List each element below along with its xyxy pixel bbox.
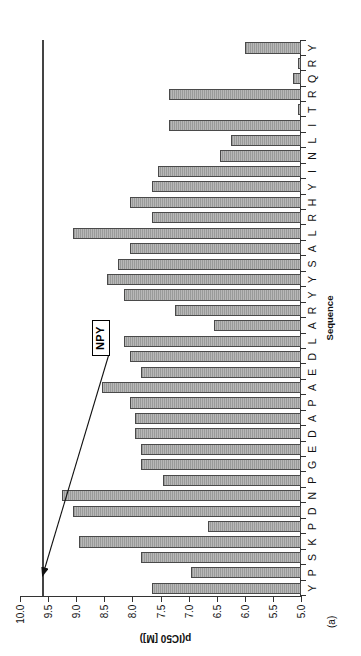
bar-slot [20,71,301,86]
category-axis-labels: YPSKPDNPGEDAPAEDLARYYSALRHYINLITRQRY [306,40,322,596]
bar-slot [20,473,301,488]
bar-slot [20,318,301,333]
bar-slot [20,534,301,549]
category-axis-tick-label: A [306,241,322,256]
category-axis-tick-label: E [306,442,322,457]
bar [169,120,301,131]
bar [118,259,301,270]
category-axis-tick-label: Y [306,40,322,55]
value-axis-title: p(IC50 [M]) [140,633,192,644]
bar-slot [20,581,301,596]
category-axis-tick-label: K [306,534,322,549]
bar [158,166,301,177]
bar-slot [20,395,301,410]
category-axis-tick-label: I [306,164,322,179]
bar [62,490,301,501]
category-axis-tick-label: Y [306,272,322,287]
bar [220,150,301,161]
value-axis-tick [217,596,218,602]
category-axis-tick-label: L [306,133,322,148]
bar [79,536,301,547]
bar [175,305,301,316]
category-axis-tick-label: D [306,426,322,441]
category-axis-tick-label: N [306,488,322,503]
bar [208,521,301,532]
bar [298,58,301,69]
value-axis-tick-label: 9.5 [43,605,54,618]
bar-slot [20,303,301,318]
bar [102,382,302,393]
category-axis-tick-label: A [306,318,322,333]
value-axis-tick [132,596,133,602]
category-axis-tick-label: L [306,334,322,349]
category-axis-tick-label: S [306,550,322,565]
value-axis-tick-label: 6.0 [239,605,250,618]
bar [130,243,301,254]
bar-slot [20,565,301,580]
npy-annotation-box: NPY [92,320,110,356]
npy-reference-line [42,40,43,596]
bar [298,104,301,115]
value-axis-tick [189,596,190,602]
bar [135,413,301,424]
category-axis-tick-label: R [306,210,322,225]
value-axis-tick-label: 10.0 [15,605,26,624]
figure-canvas: 10.09.59.08.58.07.57.06.56.05.55.0 p(IC5… [0,0,361,656]
bar [152,212,301,223]
category-axis-tick-label: P [306,395,322,410]
bar [191,567,301,578]
bar [293,73,301,84]
bar [231,135,301,146]
bar [130,397,301,408]
bar-slot [20,133,301,148]
value-axis-tick-label: 5.0 [296,605,307,618]
category-axis-tick-label: Y [306,581,322,596]
category-axis-tick-label: R [306,87,322,102]
bar-slot [20,148,301,163]
value-axis-tick [301,596,302,602]
bar-slot [20,364,301,379]
category-axis-tick-label: Y [306,179,322,194]
bar [141,459,301,470]
category-axis-tick-label: Q [306,71,322,86]
bar [141,444,301,455]
bar-slot [20,287,301,302]
value-axis-tick-label: 5.5 [267,605,278,618]
value-axis-tick [104,596,105,602]
value-axis-tick-label: 7.0 [183,605,194,618]
value-axis-tick-label: 7.5 [155,605,166,618]
value-axis: 10.09.59.08.58.07.57.06.56.05.55.0 [20,596,301,656]
value-axis-tick-label: 6.5 [211,605,222,618]
bar [245,42,301,53]
bar-slot [20,334,301,349]
bar [214,320,301,331]
rotated-figure-wrapper: 10.09.59.08.58.07.57.06.56.05.55.0 p(IC5… [0,0,361,656]
bar-slot [20,426,301,441]
value-axis-tick [48,596,49,602]
value-axis-tick-label: 8.0 [127,605,138,618]
bar [163,475,301,486]
plot-area [20,40,301,596]
bar-slot [20,442,301,457]
bar [130,351,301,362]
category-axis-tick-label: D [306,503,322,518]
bar-slot [20,503,301,518]
bar-slot [20,179,301,194]
category-axis-title: Sequence [324,40,335,596]
bar-slot [20,411,301,426]
bar-slot [20,519,301,534]
bar [73,228,301,239]
category-axis-tick-label: L [306,226,322,241]
category-axis-tick-label: S [306,256,322,271]
category-axis-tick-label: A [306,411,322,426]
bar-slot [20,226,301,241]
category-axis-tick-label: I [306,117,322,132]
category-axis-tick-label: G [306,457,322,472]
bar [107,274,301,285]
bar-slot [20,457,301,472]
bar [130,197,301,208]
bar-slot [20,256,301,271]
category-axis-tick-label: P [306,565,322,580]
bar-slot [20,488,301,503]
bar-slot [20,56,301,71]
